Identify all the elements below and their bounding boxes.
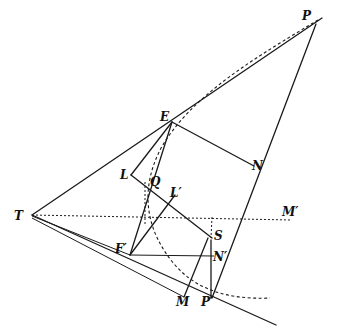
- label-N: N: [251, 159, 264, 173]
- line-T-Mprime: [32, 215, 292, 220]
- line-L-S: [131, 175, 212, 238]
- line-T-M: [32, 218, 184, 297]
- label-P: P: [301, 9, 312, 23]
- line-Mprime-S: [211, 217, 212, 238]
- line-Lprime-Fprime: [130, 195, 175, 255]
- label-L-prime: L′: [169, 186, 182, 200]
- label-E: E: [159, 110, 170, 124]
- line-S-M: [184, 238, 208, 297]
- line-T-Pprime-tangent: [32, 215, 276, 325]
- label-M: M: [175, 295, 190, 309]
- label-T: T: [14, 209, 24, 223]
- label-M-prime: M′: [281, 205, 299, 219]
- label-S: S: [214, 229, 223, 243]
- parabola-curve: [148, 20, 318, 298]
- label-P-prime: P′: [200, 295, 214, 309]
- label-Q: Q: [150, 175, 161, 189]
- line-E-N: [172, 122, 254, 166]
- line-P-Pprime: [212, 24, 316, 298]
- label-L: L: [119, 168, 128, 182]
- geometry-diagram: P E N L Q L′ M′ T S F′ N′ M P′: [0, 0, 338, 336]
- label-F-prime: F′: [114, 242, 128, 256]
- line-E-L: [131, 122, 172, 175]
- label-N-prime: N′: [212, 250, 228, 264]
